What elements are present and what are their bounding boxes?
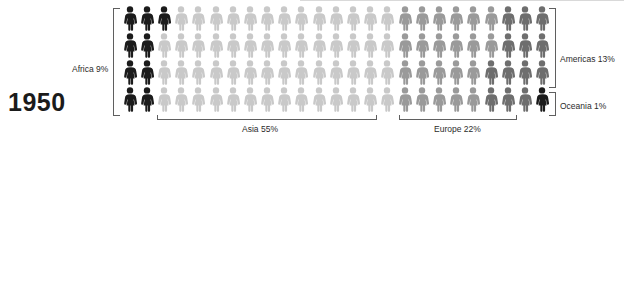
person-icon (140, 33, 154, 58)
person-icon (277, 33, 291, 58)
person-icon (243, 60, 257, 85)
person-icon (466, 87, 480, 112)
person-icon (535, 33, 549, 58)
person-icon (123, 60, 137, 85)
person-icon (484, 6, 498, 31)
person-icon (174, 87, 188, 112)
person-icon (174, 60, 188, 85)
person-icon (329, 33, 343, 58)
person-icon (380, 60, 394, 85)
person-icon (294, 60, 308, 85)
person-icon (432, 33, 446, 58)
person-icon (191, 33, 205, 58)
person-icon (518, 33, 532, 58)
panel-2100: 2100 (projected) Africa 39% Americas 12%… (0, 143, 624, 289)
person-icon (466, 33, 480, 58)
person-icon (209, 33, 223, 58)
person-icon (501, 60, 515, 85)
label-asia-1950: Asia 55% (200, 124, 320, 134)
person-icon (415, 87, 429, 112)
person-icon (449, 60, 463, 85)
person-icon (363, 6, 377, 31)
person-icon (191, 87, 205, 112)
person-icon (535, 60, 549, 85)
person-icon (243, 33, 257, 58)
year-label-1950: 1950 (8, 90, 66, 115)
person-icon (277, 60, 291, 85)
person-icon (363, 87, 377, 112)
person-icon (398, 6, 412, 31)
label-americas-1950: Americas 13% (560, 54, 615, 64)
person-icon (518, 87, 532, 112)
person-icon (432, 60, 446, 85)
person-icon (449, 6, 463, 31)
person-icon (449, 33, 463, 58)
person-icon (209, 60, 223, 85)
person-icon (346, 87, 360, 112)
label-oceania-1950: Oceania 1% (560, 101, 606, 111)
person-icon (484, 60, 498, 85)
person-icon (518, 60, 532, 85)
person-icon (398, 33, 412, 58)
person-icon (294, 6, 308, 31)
person-icon (535, 87, 549, 112)
person-icon (312, 33, 326, 58)
person-icon (501, 33, 515, 58)
person-icon (277, 87, 291, 112)
person-icon (329, 87, 343, 112)
person-icon (329, 6, 343, 31)
person-icon (157, 60, 171, 85)
person-icon (277, 6, 291, 31)
person-icon (226, 87, 240, 112)
infographic-canvas: 1950 Africa 9% Americas 13% Oceania 1% A… (0, 0, 624, 289)
bracket-left-1950 (113, 8, 120, 116)
person-icon (226, 60, 240, 85)
person-icon (380, 87, 394, 112)
person-icon (294, 33, 308, 58)
person-icon (466, 60, 480, 85)
person-icon (123, 33, 137, 58)
person-icon (157, 6, 171, 31)
person-icon (209, 6, 223, 31)
person-icon (260, 60, 274, 85)
person-icon (243, 6, 257, 31)
person-icon (260, 33, 274, 58)
person-icon (174, 33, 188, 58)
person-icon (535, 6, 549, 31)
person-icon (501, 87, 515, 112)
person-icon (398, 87, 412, 112)
person-icon (449, 87, 463, 112)
person-icon (140, 87, 154, 112)
person-icon (346, 33, 360, 58)
person-icon (294, 87, 308, 112)
person-icon (123, 87, 137, 112)
person-icon (174, 6, 188, 31)
person-icon (432, 87, 446, 112)
label-europe-1950: Europe 22% (405, 124, 510, 134)
person-icon (260, 87, 274, 112)
person-icon (209, 87, 223, 112)
bracket-bottom-europe-1950 (399, 115, 517, 120)
person-icon (380, 6, 394, 31)
person-icon (226, 6, 240, 31)
person-icon (157, 33, 171, 58)
person-icon (312, 60, 326, 85)
person-icon (415, 6, 429, 31)
person-icon (157, 87, 171, 112)
person-icon (363, 60, 377, 85)
person-icon (415, 60, 429, 85)
person-icon (260, 6, 274, 31)
person-icon (191, 60, 205, 85)
person-icon (312, 6, 326, 31)
person-icon (484, 33, 498, 58)
person-icon (346, 60, 360, 85)
person-icon (398, 60, 412, 85)
person-icon (140, 6, 154, 31)
bracket-bottom-asia-1950 (157, 115, 377, 120)
person-icon (191, 6, 205, 31)
person-icon (380, 33, 394, 58)
person-icon (432, 6, 446, 31)
panel-1950: 1950 Africa 9% Americas 13% Oceania 1% A… (0, 2, 624, 138)
person-icon (312, 87, 326, 112)
top-divider (300, 0, 624, 1)
